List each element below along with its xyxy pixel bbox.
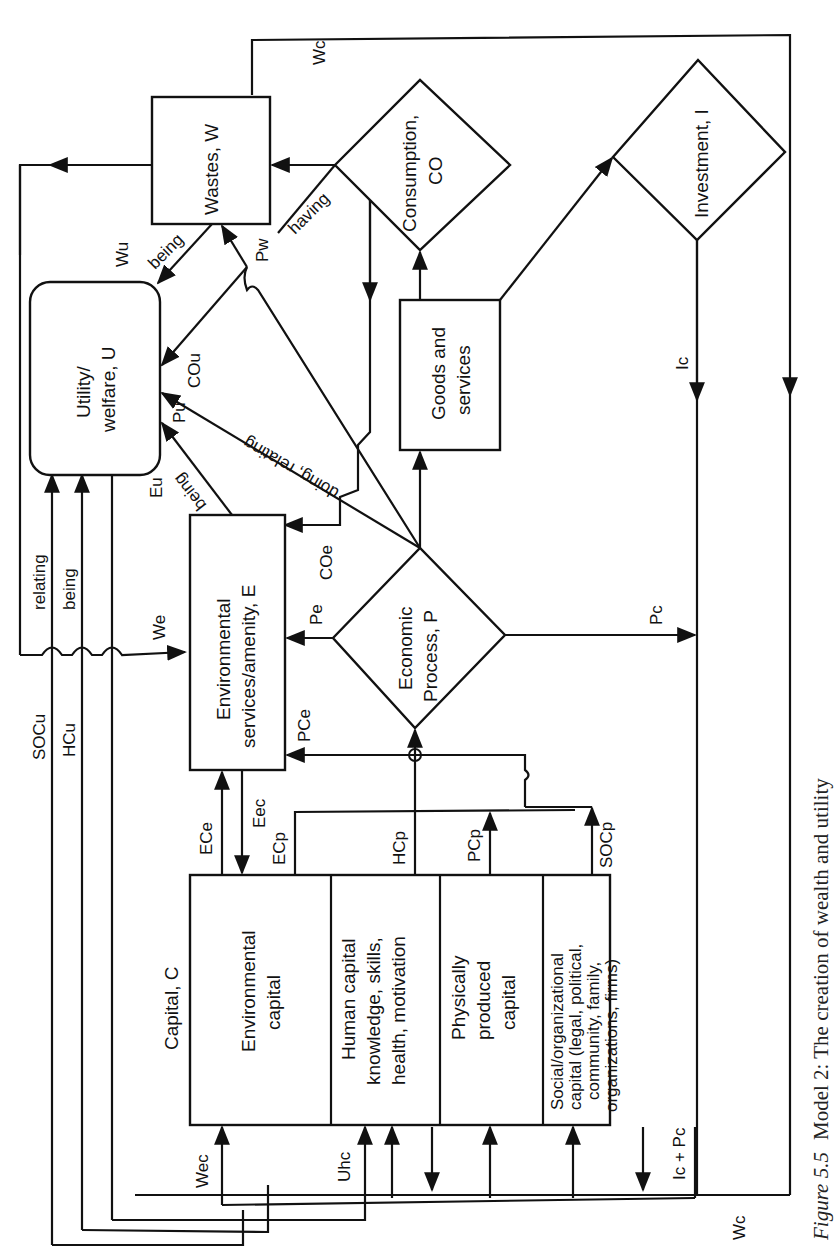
node-economic-process: [333, 548, 505, 728]
cap-human-3: health, motivation: [388, 936, 409, 1085]
bottom-bus: [222, 1198, 695, 1205]
label-we: We: [150, 615, 169, 640]
label-being-eu: being: [170, 470, 211, 514]
consumption-label-1: Consumption,: [399, 115, 420, 232]
goods-label-2: services: [453, 345, 474, 415]
label-socp: SOCp: [597, 822, 616, 868]
consumption-label-2: CO: [425, 157, 446, 186]
label-being-wu: being: [144, 230, 187, 273]
env-services-label-1: Environmental: [213, 599, 234, 720]
label-ic-pc: Ic + Pc: [670, 1127, 689, 1180]
label-ecp: ECp: [270, 832, 289, 865]
soc-return: [52, 1210, 243, 1245]
label-eu: Eu: [147, 477, 166, 498]
label-wc-top: Wc: [310, 40, 329, 65]
cap-human-1: Human capital: [338, 939, 359, 1060]
label-relating: relating: [30, 554, 49, 610]
cap-human-2: knowledge, skills,: [363, 937, 384, 1085]
label-socu: SOCu: [30, 714, 49, 760]
wastes-left-flow: [20, 165, 152, 255]
caption-figure-number: Figure 5.5: [809, 1152, 833, 1241]
label-pu: Pu: [170, 402, 189, 423]
cap-social-3: community, family,: [584, 962, 603, 1100]
cap-social-2: capital (legal, political,: [566, 944, 585, 1110]
socp-loop: [412, 755, 529, 807]
node-consumption: [335, 80, 510, 250]
label-ic: Ic: [673, 356, 692, 370]
investment-label: Investment, I: [691, 109, 712, 218]
ecp-line: [295, 810, 575, 875]
label-eec: Eec: [250, 798, 269, 828]
we-flow: [20, 648, 185, 656]
label-doing-relating: doing, relating: [240, 433, 342, 503]
env-services-label-2: services/amenity, E: [238, 585, 259, 748]
label-cou: COu: [185, 353, 204, 388]
label-pcp: PCp: [465, 829, 484, 862]
goods-label-1: Goods and: [428, 327, 449, 420]
capital-title: Capital, C: [161, 967, 182, 1050]
label-ece: ECe: [197, 822, 216, 855]
cap-phys-1: Physically: [448, 955, 469, 1040]
utility-label-1: Utility/: [73, 366, 94, 418]
economic-label-2: Process, P: [420, 610, 441, 702]
wealth-utility-diagram: Wastes, W Consumption, CO Goods and serv…: [0, 0, 839, 1247]
cap-env-1: Environmental: [238, 931, 259, 1052]
label-pw: Pw: [253, 238, 272, 262]
p-to-pw: [245, 267, 421, 548]
label-wc-bottom: Wc: [730, 1215, 749, 1240]
goods-to-investment: [500, 158, 612, 300]
wastes-label: Wastes, W: [201, 124, 222, 215]
label-hcp: HCp: [390, 831, 409, 865]
cou-flow: [162, 267, 247, 365]
hc-return: [82, 1185, 268, 1232]
label-coe: COe: [317, 545, 336, 580]
cap-phys-2: produced: [473, 961, 494, 1040]
label-wu: Wu: [113, 242, 132, 267]
node-goods-services: [400, 300, 500, 450]
label-pc: Pc: [647, 605, 666, 625]
pw-flow: [222, 226, 247, 267]
label-wec: Wec: [193, 1154, 212, 1188]
label-hcu: HCu: [60, 723, 79, 757]
label-uhc: Uhc: [335, 1151, 354, 1182]
caption-text: Model 2: The creation of wealth and util…: [809, 778, 833, 1140]
utility-label-2: welfare, U: [98, 346, 119, 433]
cap-phys-3: capital: [498, 975, 519, 1030]
node-utility: [30, 282, 160, 475]
label-pe: Pe: [307, 604, 326, 625]
cap-social-4: organizations, firms): [602, 959, 621, 1112]
cap-social-1: Social/organizational: [548, 953, 567, 1110]
label-pce: PCe: [295, 709, 314, 742]
label-being-hc: being: [60, 568, 79, 610]
cap-env-2: capital: [263, 975, 284, 1030]
economic-label-1: Economic: [395, 607, 416, 690]
